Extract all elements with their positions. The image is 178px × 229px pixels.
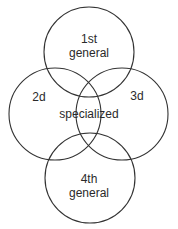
label-4th: 4th (81, 172, 98, 186)
label-1st: 1st (81, 32, 98, 46)
label-3d: 3d (130, 89, 143, 103)
label-4th-general: general (69, 186, 109, 200)
label-2d: 2d (32, 90, 45, 104)
venn-diagram: 1st general 2d 3d specialized 4th genera… (0, 0, 178, 229)
label-specialized: specialized (59, 107, 118, 121)
label-1st-general: general (69, 46, 109, 60)
